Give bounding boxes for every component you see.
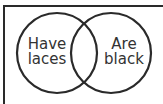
set-label-are-black: Are black <box>100 37 148 67</box>
label-line: black <box>100 52 148 67</box>
label-line: laces <box>22 52 72 67</box>
set-label-have-laces: Have laces <box>22 37 72 67</box>
